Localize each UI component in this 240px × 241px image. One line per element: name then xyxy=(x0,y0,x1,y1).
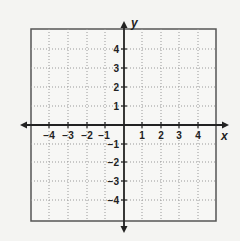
y-tick-label: −4 xyxy=(108,195,120,206)
x-axis-left-arrow-icon xyxy=(20,122,27,129)
x-tick-label: −2 xyxy=(81,130,93,141)
y-tick-label: 4 xyxy=(113,44,119,55)
y-tick-label: −1 xyxy=(108,139,120,150)
x-axis-right-arrow-icon xyxy=(222,122,229,129)
y-axis-up-arrow-icon xyxy=(121,21,128,28)
x-tick-label: 1 xyxy=(139,130,145,141)
y-tick-label: −2 xyxy=(108,157,120,168)
y-tick-label: 1 xyxy=(113,101,119,112)
coordinate-plane: y x −4 −3 −2 −1 1 2 3 4 4 3 2 1 −1 −2 −3… xyxy=(0,0,240,241)
x-tick-label: −3 xyxy=(62,130,74,141)
x-axis-label: x xyxy=(220,129,229,143)
x-tick-label: −4 xyxy=(43,130,55,141)
y-tick-label: 2 xyxy=(113,82,119,93)
y-axis-label: y xyxy=(130,16,139,30)
y-axis-down-arrow-icon xyxy=(121,226,128,233)
x-tick-label: 3 xyxy=(176,130,182,141)
x-tick-label: 2 xyxy=(158,130,164,141)
y-tick-label: 3 xyxy=(113,63,119,74)
x-tick-label: 4 xyxy=(195,130,201,141)
y-tick-label: −3 xyxy=(108,176,120,187)
